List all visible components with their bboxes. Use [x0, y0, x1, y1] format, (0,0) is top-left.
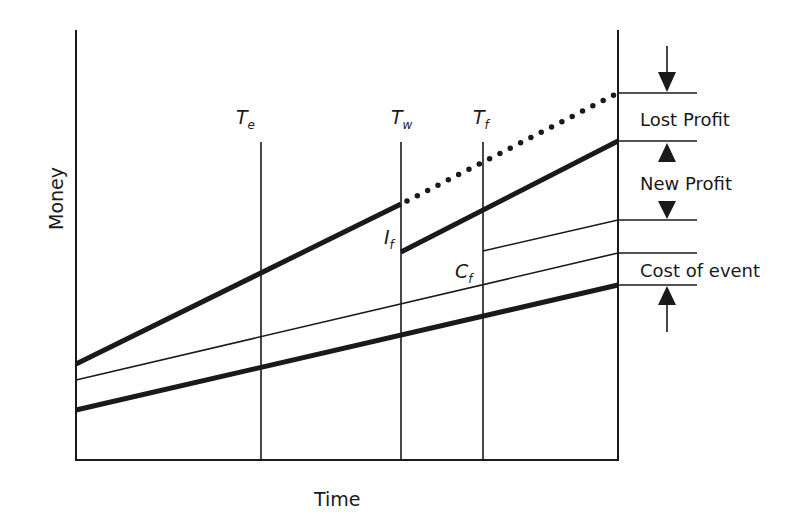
- te-label: Te: [236, 106, 255, 132]
- if-label: If: [384, 226, 396, 252]
- lower-baseline-thick-line: [76, 285, 618, 410]
- original-profit-line: [76, 204, 401, 364]
- new-profit-label: New Profit: [640, 173, 732, 194]
- x-axis-label: Time: [313, 488, 361, 510]
- y-axis-label: Money: [45, 167, 67, 230]
- lost-profit-label: Lost Profit: [640, 109, 730, 130]
- new-profit-line: [401, 141, 618, 252]
- arrow-up-icon: [658, 286, 676, 332]
- baseline-thin-line: [76, 253, 618, 380]
- cost-of-event-label: Cost of event: [640, 260, 760, 281]
- tf-label: Tf: [473, 106, 491, 132]
- arrow-up-icon: [658, 143, 676, 162]
- lost-profit-dotted-line: [407, 95, 614, 201]
- tw-label: Tw: [391, 106, 413, 132]
- arrow-down-icon: [658, 201, 676, 219]
- diagram-canvas: Lost Profit New Profit Cost of event Te …: [0, 0, 805, 514]
- cost-after-cf-line: [483, 220, 618, 251]
- arrow-down-icon: [658, 46, 676, 92]
- cf-label: Cf: [455, 260, 474, 286]
